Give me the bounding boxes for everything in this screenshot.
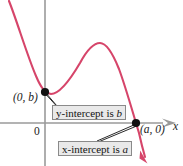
x-intercept-leader-line-upper xyxy=(97,125,135,142)
y-intercept-callout: y-intercept is b xyxy=(52,105,126,120)
x-intercept-coordinate-label: (a, 0) xyxy=(140,124,165,136)
x-intercept-point xyxy=(132,119,140,127)
x-intercept-callout: x-intercept is a xyxy=(58,141,132,156)
cubic-curve xyxy=(9,1,145,157)
y-intercept-callout-variable: b xyxy=(116,107,122,119)
graph-figure: (0, b) (a, 0) 0 x y-intercept is b x-int… xyxy=(0,0,183,166)
x-intercept-callout-text: x-intercept is xyxy=(62,143,122,155)
x-intercept-callout-variable: a xyxy=(122,143,128,155)
y-intercept-coordinate-label: (0, b) xyxy=(13,92,38,104)
x-axis-label: x xyxy=(173,121,178,133)
y-intercept-point xyxy=(41,88,49,96)
origin-label: 0 xyxy=(34,126,40,138)
y-intercept-callout-text: y-intercept is xyxy=(56,107,116,119)
